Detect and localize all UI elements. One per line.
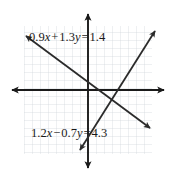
eq-bottom-constant: 4.3 xyxy=(92,126,108,140)
eq-top-operator: + xyxy=(50,30,59,44)
eq-top-equals: = xyxy=(80,30,89,44)
eq-top-coef-x: 0.9 xyxy=(29,30,45,44)
eq-top-coef-y: 1.3 xyxy=(59,30,75,44)
eq-bottom-coef-x: 1.2 xyxy=(31,126,47,140)
eq-top-constant: 1.4 xyxy=(90,30,106,44)
eq-bottom-coef-y: 0.7 xyxy=(61,126,77,140)
eq-bottom-operator: − xyxy=(52,126,61,140)
equation-label-bottom: 1.2x−0.7y=4.3 xyxy=(31,126,107,141)
eq-bottom-equals: = xyxy=(82,126,91,140)
graph-figure: 0.9x+1.3y=1.4 1.2x−0.7y=4.3 xyxy=(0,0,176,177)
equation-label-top: 0.9x+1.3y=1.4 xyxy=(29,30,105,45)
coordinate-plane-svg xyxy=(0,0,176,177)
